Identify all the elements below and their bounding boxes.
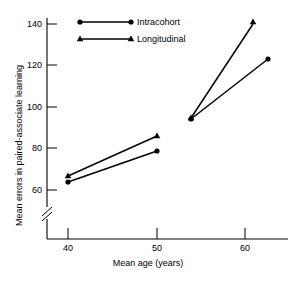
longitudinal-segment-right [191,24,253,118]
longitudinal-point-61 [250,18,257,24]
longitudinal-point-50 [154,132,161,138]
x-tick-label-50: 50 [143,243,171,253]
intracohort-point-64 [265,56,270,61]
intracohort-segment-right [191,59,268,119]
y-tick-label-140: 140 [16,19,42,29]
x-tick-label-60: 60 [231,243,259,253]
legend-circle-marker-right [128,19,133,24]
legend-label-longitudinal: Longitudinal [137,34,186,44]
x-tick-label-40: 40 [54,243,82,253]
intracohort-point-50 [154,148,159,153]
y-axis-title: Mean errors in paired-associate learning [14,65,24,226]
legend-label-intracohort: Intracohort [137,17,180,27]
intracohort-point-40 [65,179,70,184]
x-axis-title: Mean age (years) [0,258,296,268]
axis-break-slash-1 [42,207,52,216]
chart-figure: 140 120 100 80 60 40 50 60 Mean age (yea… [0,0,296,281]
legend-circle-marker-left [77,19,82,24]
